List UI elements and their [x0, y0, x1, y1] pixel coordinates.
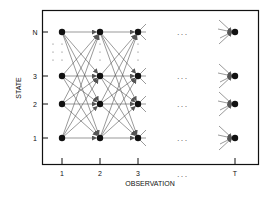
transition-edge — [62, 106, 97, 138]
state-node — [59, 29, 65, 35]
state-node — [232, 135, 238, 141]
state-node — [232, 101, 238, 107]
incoming-edge-stub — [219, 126, 232, 138]
state-nodes — [59, 29, 238, 141]
state-node — [232, 29, 238, 35]
y-tick-label: N — [32, 29, 37, 36]
incoming-edge-stub — [219, 104, 232, 116]
incoming-edge-stub — [220, 76, 232, 82]
vertical-ellipsis-dot — [137, 43, 138, 44]
incoming-edge-stub — [218, 135, 232, 138]
x-tick-label: 2 — [98, 170, 102, 177]
row-ellipsis: . . . — [177, 101, 187, 108]
vertical-ellipsis-dot — [61, 59, 62, 60]
transition-edge — [100, 106, 135, 138]
incoming-edge-stub — [220, 138, 232, 144]
incoming-edge-stub — [219, 64, 232, 76]
partial-transitions — [218, 20, 232, 150]
incoming-edge-stub — [220, 104, 232, 110]
transition-edge — [100, 76, 136, 135]
transition-edges — [62, 24, 146, 146]
vertical-ellipsis-dot — [52, 59, 53, 60]
transition-edge — [100, 78, 135, 104]
state-node — [59, 73, 65, 79]
transition-edge — [100, 32, 137, 135]
transition-edge — [62, 78, 97, 104]
state-node — [59, 101, 65, 107]
state-node — [97, 73, 103, 79]
state-node — [97, 135, 103, 141]
x-tick-label: 1 — [60, 170, 64, 177]
incoming-edge-stub — [219, 32, 232, 44]
incoming-edge-stub — [218, 29, 232, 32]
incoming-edge-stub — [219, 92, 232, 104]
incoming-edge-stub — [220, 32, 232, 38]
incoming-edge-stub — [218, 101, 232, 104]
y-axis-ticks: 123N — [32, 29, 48, 142]
y-tick-label: 2 — [33, 101, 37, 108]
state-node — [59, 135, 65, 141]
x-axis-ellipsis: . . . — [177, 171, 187, 178]
vertical-ellipsis-dot — [99, 59, 100, 60]
row-ellipsis: . . . — [177, 135, 187, 142]
state-node — [135, 101, 141, 107]
x-axis-label: OBSERVATION — [125, 180, 174, 187]
plot-frame — [43, 11, 259, 165]
state-node — [97, 29, 103, 35]
incoming-edge-stub — [219, 20, 232, 32]
state-node — [135, 29, 141, 35]
vertical-ellipsis-dot — [61, 43, 62, 44]
transition-edge — [62, 32, 99, 135]
x-axis-ticks: 123T — [60, 158, 238, 177]
y-tick-label: 3 — [33, 73, 37, 80]
incoming-edge-stub — [219, 138, 232, 150]
state-node — [232, 73, 238, 79]
vertical-ellipsis-dot — [61, 51, 62, 52]
trellis-diagram: . . .. . .. . .. . . 123N 123T . . . STA… — [0, 0, 271, 198]
vertical-ellipsis-dot — [137, 51, 138, 52]
vertical-ellipsis-dot — [52, 51, 53, 52]
y-tick-label: 1 — [33, 135, 37, 142]
incoming-edge-stub — [218, 73, 232, 76]
vertical-ellipsis-dot — [99, 51, 100, 52]
state-node — [135, 73, 141, 79]
vertical-ellipsis-dot — [99, 43, 100, 44]
row-ellipsis: . . . — [177, 73, 187, 80]
state-node — [97, 101, 103, 107]
vertical-ellipsis-dot — [137, 59, 138, 60]
incoming-edge-stub — [219, 76, 232, 88]
horizontal-ellipsis-group: . . .. . .. . .. . . — [177, 29, 187, 142]
vertical-ellipsis-dot — [52, 43, 53, 44]
x-tick-label: T — [233, 170, 238, 177]
transition-edge — [62, 76, 98, 135]
row-ellipsis: . . . — [177, 29, 187, 36]
x-tick-label: 3 — [136, 170, 140, 177]
state-node — [135, 135, 141, 141]
y-axis-label: STATE — [15, 77, 22, 99]
